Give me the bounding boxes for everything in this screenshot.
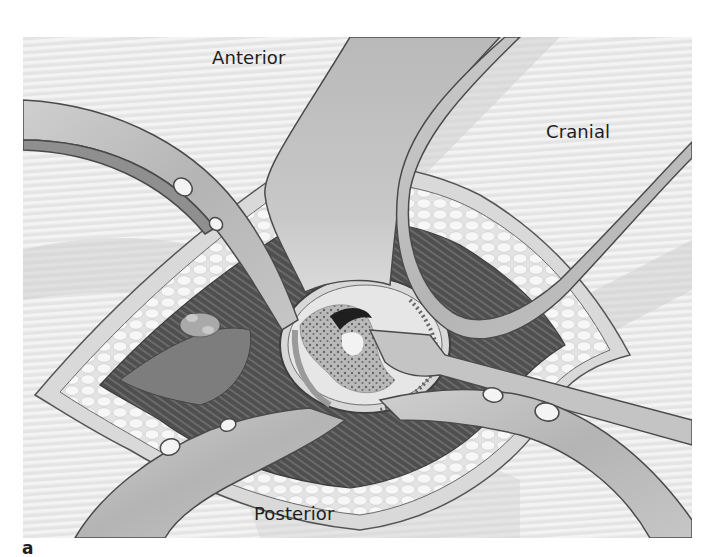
panel-label: a	[22, 538, 33, 557]
cranial-label: Cranial	[546, 121, 610, 142]
anterior-label: Anterior	[212, 47, 285, 68]
posterior-label: Posterior	[254, 503, 334, 524]
surgical-illustration-figure: Anterior Cranial Posterior a	[0, 0, 715, 557]
surgical-field-drawing	[23, 37, 692, 538]
illustration-frame	[23, 37, 692, 538]
